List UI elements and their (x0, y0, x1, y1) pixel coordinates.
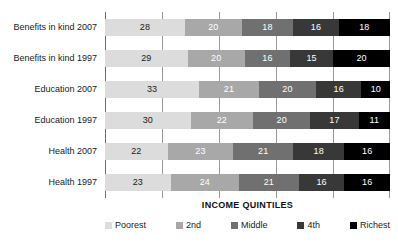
category-label-cell: Education 1997 (0, 105, 101, 136)
category-label-cell: Benefits in kind 1997 (0, 43, 101, 74)
legend-swatch-icon (350, 222, 357, 229)
legend-swatch-icon (231, 222, 238, 229)
legend-swatch-icon (176, 222, 183, 229)
bar-segment-4th: 16 (299, 174, 345, 191)
category-label-cell: Education 2007 (0, 74, 101, 105)
bar-row: 2324211616 (105, 167, 390, 198)
bar-segment-2nd: 20 (188, 50, 245, 67)
bar-segment-4th: 16 (293, 19, 339, 36)
category-label: Education 2007 (34, 85, 97, 94)
legend-label: Richest (360, 221, 390, 230)
bar-row: 2223211816 (105, 136, 390, 167)
stacked-bar-chart: Benefits in kind 2007Benefits in kind 19… (0, 0, 398, 243)
bar-segment-4th: 18 (293, 143, 344, 160)
bar-segment-richest: 16 (344, 143, 390, 160)
bar-segment-2nd: 20 (185, 19, 242, 36)
legend-item-richest[interactable]: Richest (350, 221, 390, 230)
bar-segment-2nd: 22 (191, 112, 254, 129)
category-label: Benefits in kind 1997 (13, 54, 97, 63)
bar-segment-richest: 10 (361, 81, 390, 98)
bar-rows: 2820181618292016152033212016103022201711… (105, 12, 390, 198)
category-label-cell: Health 2007 (0, 136, 101, 167)
bar-segment-4th: 16 (316, 81, 362, 98)
chart-legend: Poorest2ndMiddle4thRichest (105, 221, 390, 230)
bar-segment-richest: 18 (339, 19, 390, 36)
stacked-bar: 3022201711 (105, 112, 390, 129)
bar-segment-middle: 21 (233, 143, 293, 160)
legend-swatch-icon (297, 222, 304, 229)
bar-segment-poorest: 28 (105, 19, 185, 36)
bar-segment-middle: 21 (239, 174, 299, 191)
legend-label: 4th (307, 221, 320, 230)
stacked-bar: 2223211816 (105, 143, 390, 160)
bar-row: 3022201711 (105, 105, 390, 136)
bar-segment-4th: 17 (310, 112, 358, 129)
category-label-cell: Benefits in kind 2007 (0, 12, 101, 43)
legend-item-4th[interactable]: 4th (297, 221, 320, 230)
bar-segment-richest: 16 (344, 174, 390, 191)
category-label: Benefits in kind 2007 (13, 23, 97, 32)
bar-segment-2nd: 23 (168, 143, 234, 160)
bar-segment-middle: 18 (242, 19, 293, 36)
legend-label: 2nd (186, 221, 201, 230)
bar-row: 3321201610 (105, 74, 390, 105)
plot-area: 2820181618292016152033212016103022201711… (105, 12, 390, 198)
stacked-bar: 3321201610 (105, 81, 390, 98)
bar-segment-middle: 16 (245, 50, 291, 67)
legend-swatch-icon (105, 222, 112, 229)
legend-item-middle[interactable]: Middle (231, 221, 268, 230)
legend-label: Middle (241, 221, 268, 230)
category-axis-labels: Benefits in kind 2007Benefits in kind 19… (0, 12, 101, 198)
bar-segment-poorest: 33 (105, 81, 199, 98)
category-label: Education 1997 (34, 116, 97, 125)
category-label: Health 1997 (48, 178, 97, 187)
category-label-cell: Health 1997 (0, 167, 101, 198)
bar-segment-poorest: 23 (105, 174, 171, 191)
bar-segment-middle: 20 (259, 81, 316, 98)
bar-segment-4th: 15 (290, 50, 333, 67)
stacked-bar: 2324211616 (105, 174, 390, 191)
bar-segment-2nd: 24 (171, 174, 239, 191)
x-axis-title: INCOME QUINTILES (105, 200, 390, 210)
bar-segment-poorest: 29 (105, 50, 188, 67)
bar-segment-poorest: 30 (105, 112, 191, 129)
bar-segment-poorest: 22 (105, 143, 168, 160)
bar-segment-richest: 20 (333, 50, 390, 67)
category-label: Health 2007 (48, 147, 97, 156)
bar-segment-2nd: 21 (199, 81, 259, 98)
legend-label: Poorest (115, 221, 146, 230)
bar-segment-richest: 11 (359, 112, 390, 129)
legend-item-2nd[interactable]: 2nd (176, 221, 201, 230)
bar-row: 2820181618 (105, 12, 390, 43)
stacked-bar: 2920161520 (105, 50, 390, 67)
bar-segment-middle: 20 (253, 112, 310, 129)
legend-item-poorest[interactable]: Poorest (105, 221, 146, 230)
bar-row: 2920161520 (105, 43, 390, 74)
stacked-bar: 2820181618 (105, 19, 390, 36)
